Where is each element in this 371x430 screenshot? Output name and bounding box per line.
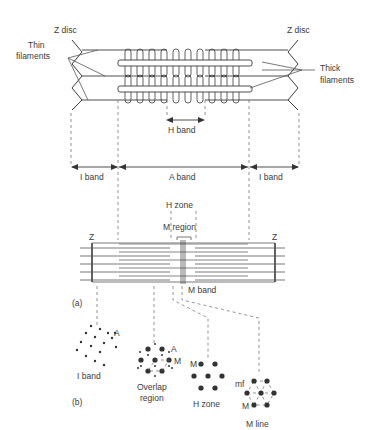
thin-filaments-label-2: filaments [16, 51, 50, 61]
h-zone-marker-m: M [190, 359, 197, 369]
band-arrows [71, 164, 299, 170]
i-band-marker-a: A [114, 328, 120, 338]
panel-a: H zone M region Z Z [72, 200, 285, 375]
pointer-lines [68, 50, 315, 100]
m-region-label: M region [163, 222, 196, 232]
i-band-section-label: I band [77, 371, 101, 381]
thick-filaments-label-2: filaments [320, 75, 354, 85]
h-band-arrow [166, 117, 205, 123]
overlap-cross-section [137, 343, 173, 377]
m-region-bracket [177, 237, 191, 240]
band-guide-lines [71, 100, 299, 240]
z-disc-left-label: Z disc [54, 25, 77, 35]
m-line-section-label: M line [246, 419, 269, 429]
panel-a-tag: (a) [72, 298, 83, 308]
h-zone-section-label: H zone [193, 399, 220, 409]
m-line-marker-mf: mf [235, 379, 245, 389]
thick-filaments-label-1: Thick [320, 63, 341, 73]
m-line-cross-section [244, 378, 276, 407]
panel-b: A I band A M Overlap region M H zon [72, 325, 277, 429]
h-band-label: H band [168, 125, 196, 135]
h-zone-label: H zone [166, 200, 193, 210]
thin-filaments-label-1: Thin [28, 40, 45, 50]
m-band-lines [181, 240, 185, 284]
cross-bridges [125, 49, 239, 103]
m-band-label: M band [188, 285, 217, 295]
sarcomere-diagram: Z disc Z disc Thin filaments Thick filam… [0, 0, 371, 430]
overlap-label-1: Overlap [137, 382, 167, 392]
i-band-cross-section [76, 325, 117, 366]
i-band-left-label: I band [80, 172, 104, 182]
overlap-marker-a: A [171, 344, 177, 354]
z-disc-right-label: Z disc [287, 25, 310, 35]
a-band-label: A band [169, 172, 196, 182]
i-band-right-label: I band [259, 172, 283, 182]
overlap-marker-m: M [174, 356, 181, 366]
panel-b-tag: (b) [72, 397, 83, 407]
z-disc-right-line [288, 40, 298, 110]
z-disc-left-line [72, 40, 82, 110]
overlap-label-2: region [140, 393, 164, 403]
z-left-label: Z [89, 232, 94, 242]
z-right-label: Z [272, 232, 277, 242]
thick-filaments-a [119, 244, 248, 276]
m-line-marker-m: M [242, 401, 249, 411]
